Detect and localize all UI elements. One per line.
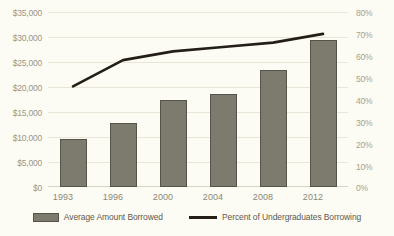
x-axis-tick-1993: 1993 bbox=[38, 192, 88, 202]
gridline bbox=[48, 112, 348, 113]
legend-item-percent-undergraduates-borrowing[interactable]: Percent of Undergraduates Borrowing bbox=[189, 212, 361, 222]
y-axis-left-tick: $20,000 bbox=[0, 83, 42, 93]
bar-2004[interactable] bbox=[210, 94, 237, 187]
y-axis-right-tick: 70% bbox=[356, 30, 392, 40]
y-axis-right-tick: 30% bbox=[356, 118, 392, 128]
legend-label: Percent of Undergraduates Borrowing bbox=[222, 212, 361, 222]
y-axis-right-tick: 20% bbox=[356, 140, 392, 150]
x-axis-tick-2012: 2012 bbox=[288, 192, 338, 202]
bar-2012[interactable] bbox=[310, 40, 337, 187]
x-axis-tick-2004: 2004 bbox=[188, 192, 238, 202]
bar-swatch-icon bbox=[33, 213, 59, 222]
y-axis-left-tick: $25,000 bbox=[0, 58, 42, 68]
x-axis-tick-2008: 2008 bbox=[238, 192, 288, 202]
bar-2000[interactable] bbox=[160, 100, 187, 187]
gridline bbox=[48, 62, 348, 63]
y-axis-right-tick: 80% bbox=[356, 8, 392, 18]
legend-label: Average Amount Borrowed bbox=[64, 212, 163, 222]
y-axis-left-tick: $35,000 bbox=[0, 8, 42, 18]
x-axis-tick-1996: 1996 bbox=[88, 192, 138, 202]
gridline bbox=[48, 162, 348, 163]
y-axis-left-tick: $0 bbox=[0, 183, 42, 193]
y-axis-left-tick: $10,000 bbox=[0, 133, 42, 143]
gridline bbox=[48, 37, 348, 38]
y-axis-right-tick: 0% bbox=[356, 183, 392, 193]
gridline bbox=[48, 12, 348, 13]
y-axis-right-tick: 10% bbox=[356, 162, 392, 172]
y-axis-right-tick: 50% bbox=[356, 74, 392, 84]
legend-item-average-amount-borrowed[interactable]: Average Amount Borrowed bbox=[33, 212, 163, 222]
plot-area bbox=[48, 12, 348, 187]
line-swatch-icon bbox=[189, 216, 217, 219]
axis-baseline bbox=[48, 186, 348, 187]
gridline bbox=[48, 87, 348, 88]
combo-chart: $35,000 $30,000 $25,000 $20,000 $15,000 … bbox=[0, 0, 394, 236]
y-axis-left-tick: $15,000 bbox=[0, 108, 42, 118]
x-axis-tick-2000: 2000 bbox=[138, 192, 188, 202]
y-axis-left-tick: $5,000 bbox=[0, 158, 42, 168]
percent-borrowing-line bbox=[48, 12, 348, 187]
y-axis-right-tick: 40% bbox=[356, 96, 392, 106]
y-axis-right-tick: 60% bbox=[356, 52, 392, 62]
bar-2008[interactable] bbox=[260, 70, 287, 187]
gridline bbox=[48, 137, 348, 138]
chart-legend: Average Amount Borrowed Percent of Under… bbox=[0, 212, 394, 222]
y-axis-left-tick: $30,000 bbox=[0, 33, 42, 43]
bar-1996[interactable] bbox=[110, 123, 137, 187]
bar-1993[interactable] bbox=[60, 139, 87, 187]
